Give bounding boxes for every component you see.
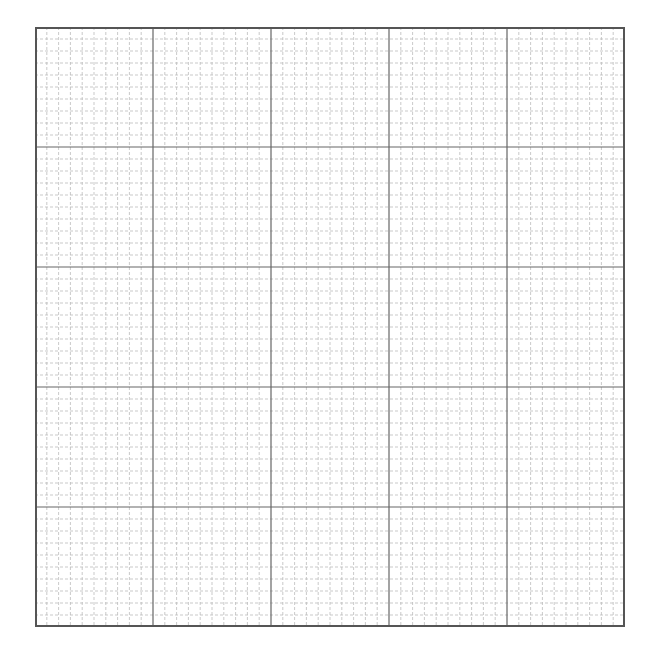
graph-paper-grid xyxy=(35,27,625,627)
grid-canvas xyxy=(35,27,625,627)
